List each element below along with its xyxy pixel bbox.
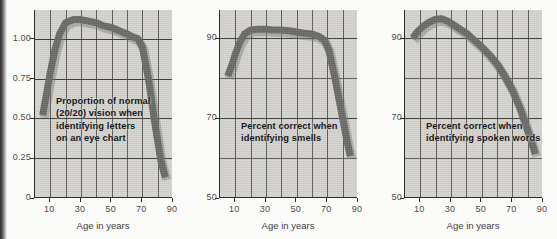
- y-tick-label: 90: [186, 32, 217, 42]
- x-tick-mark: [450, 198, 451, 202]
- x-tick-mark: [357, 198, 358, 202]
- x-tick-label: 70: [312, 204, 340, 214]
- annotation-line: Proportion of normal: [56, 95, 150, 107]
- y-tick-mark: [215, 198, 219, 199]
- annotation-line: (20/20) vision when: [56, 107, 150, 119]
- annotation-smell: Percent correct whenidentifying smells: [241, 120, 338, 145]
- y-tick-label: 90: [371, 32, 402, 42]
- curve-speech: [405, 10, 542, 198]
- curve-smell: [220, 10, 357, 198]
- y-tick-label: 70: [371, 112, 402, 122]
- x-tick-label: 10: [405, 204, 433, 214]
- x-tick-mark: [141, 198, 142, 202]
- x-tick-label: 30: [251, 204, 279, 214]
- x-tick-label: 90: [343, 204, 371, 214]
- x-tick-label: 30: [66, 204, 94, 214]
- x-tick-mark: [480, 198, 481, 202]
- x-tick-mark: [80, 198, 81, 202]
- x-tick-label: 30: [436, 204, 464, 214]
- y-tick-mark: [30, 38, 34, 39]
- x-tick-label: 70: [127, 204, 155, 214]
- y-tick-mark: [400, 198, 404, 199]
- y-tick-mark: [215, 118, 219, 119]
- plot-area-speech: [404, 10, 542, 198]
- x-tick-label: 50: [282, 204, 310, 214]
- annotation-vision: Proportion of normal(20/20) vision wheni…: [56, 95, 150, 145]
- x-axis-label-vision: Age in years: [34, 220, 172, 231]
- y-tick-label: 50: [186, 192, 217, 202]
- y-tick-mark: [30, 78, 34, 79]
- x-tick-mark: [419, 198, 420, 202]
- x-tick-label: 10: [35, 204, 63, 214]
- x-tick-mark: [234, 198, 235, 202]
- x-tick-mark: [49, 198, 50, 202]
- x-tick-mark: [326, 198, 327, 202]
- plot-area-smell: [219, 10, 357, 198]
- annotation-line: Percent correct when: [426, 120, 541, 132]
- annotation-line: identifying letters: [56, 120, 150, 132]
- x-tick-label: 90: [528, 204, 556, 214]
- x-tick-mark: [511, 198, 512, 202]
- y-tick-label: 70: [186, 112, 217, 122]
- x-axis-label-smell: Age in years: [219, 220, 357, 231]
- y-tick-label: 50: [371, 192, 402, 202]
- y-tick-mark: [30, 158, 34, 159]
- y-tick-mark: [30, 118, 34, 119]
- y-tick-mark: [400, 38, 404, 39]
- x-axis-label-speech: Age in years: [404, 220, 542, 231]
- x-tick-label: 90: [158, 204, 186, 214]
- annotation-speech: Percent correct whenidentifying spoken w…: [426, 120, 541, 145]
- scan-edge-shadow: [0, 0, 7, 239]
- x-tick-label: 50: [97, 204, 125, 214]
- x-tick-label: 70: [497, 204, 525, 214]
- x-tick-label: 10: [220, 204, 248, 214]
- x-tick-mark: [542, 198, 543, 202]
- annotation-line: Percent correct when: [241, 120, 338, 132]
- x-tick-mark: [265, 198, 266, 202]
- x-tick-mark: [295, 198, 296, 202]
- y-tick-mark: [215, 38, 219, 39]
- x-tick-mark: [172, 198, 173, 202]
- annotation-line: identifying smells: [241, 132, 338, 144]
- y-tick-mark: [400, 118, 404, 119]
- annotation-line: identifying spoken words: [426, 132, 541, 144]
- annotation-line: on an eye chart: [56, 132, 150, 144]
- x-tick-label: 50: [467, 204, 495, 214]
- figure-page: 00.250.500.751.001030507090Age in yearsP…: [0, 0, 557, 239]
- x-tick-mark: [110, 198, 111, 202]
- y-tick-mark: [30, 198, 34, 199]
